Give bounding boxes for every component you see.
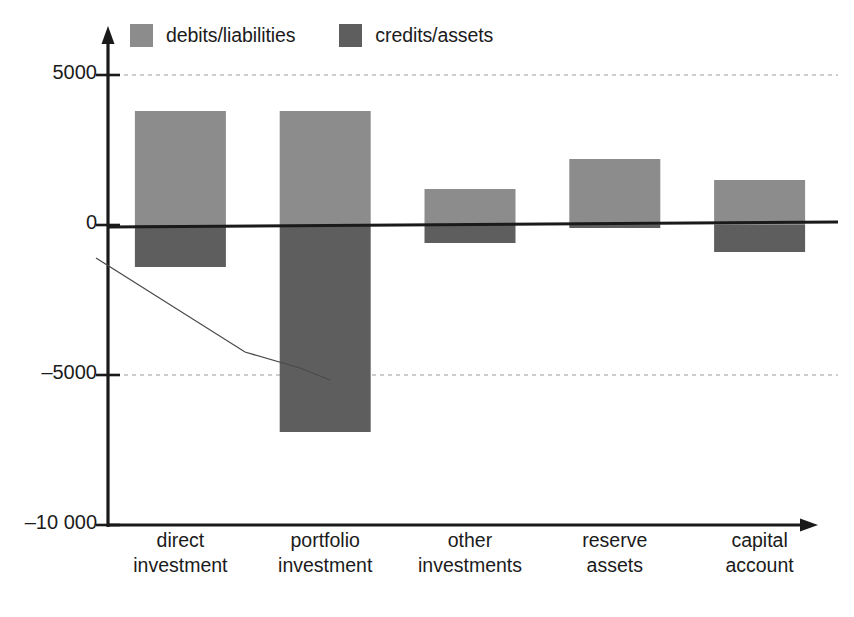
x-label-line2: investment [253, 553, 398, 578]
bars-group [135, 111, 805, 432]
axes [96, 26, 818, 532]
x-label-line1: capital [687, 528, 832, 553]
legend-label-credits: credits/assets [375, 24, 493, 47]
x-label-portfolio-investment: portfolio investment [253, 528, 398, 578]
x-label-capital-account: capital account [687, 528, 832, 578]
legend-label-debits: debits/liabilities [166, 24, 295, 47]
x-label-direct-investment: direct investment [108, 528, 253, 578]
legend-swatch-debits-icon [130, 24, 153, 47]
plot-area [0, 0, 854, 617]
bar-credits-0 [135, 225, 226, 267]
chart-container: debits/liabilities credits/assets 5000 0… [0, 0, 854, 617]
x-label-line1: direct [108, 528, 253, 553]
bar-debits-2 [425, 189, 516, 225]
bar-debits-3 [569, 159, 660, 225]
x-label-line1: other [398, 528, 543, 553]
bar-debits-0 [135, 111, 226, 225]
bar-credits-1 [280, 225, 371, 432]
x-label-line2: account [687, 553, 832, 578]
x-label-line2: investments [398, 553, 543, 578]
legend-item-credits: credits/assets [339, 24, 493, 47]
bar-debits-4 [714, 180, 805, 225]
legend-item-debits: debits/liabilities [130, 24, 295, 47]
legend-swatch-credits-icon [339, 24, 362, 47]
chart-legend: debits/liabilities credits/assets [130, 24, 493, 47]
bar-debits-1 [280, 111, 371, 225]
bar-credits-4 [714, 225, 805, 252]
x-label-reserve-assets: reserve assets [542, 528, 687, 578]
x-label-line1: reserve [542, 528, 687, 553]
y-axis-arrow-icon [102, 26, 115, 44]
bar-credits-2 [425, 225, 516, 243]
x-label-line2: investment [108, 553, 253, 578]
bar-credits-3 [569, 225, 660, 228]
x-label-line1: portfolio [253, 528, 398, 553]
x-label-other-investments: other investments [398, 528, 543, 578]
x-axis-labels: direct investment portfolio investment o… [108, 528, 832, 578]
x-label-line2: assets [542, 553, 687, 578]
